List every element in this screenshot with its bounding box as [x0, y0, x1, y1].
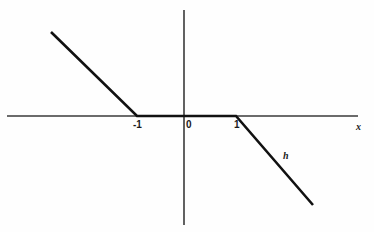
plot-canvas	[0, 0, 374, 232]
graph-figure: -1 0 1 x h	[0, 0, 374, 232]
curve-label-h: h	[283, 151, 289, 161]
x-tick-label-neg-one: -1	[133, 120, 142, 130]
x-tick-label-one: 1	[234, 120, 239, 130]
function-curve-h	[51, 32, 313, 205]
x-axis-label: x	[356, 122, 361, 132]
x-tick-label-zero: 0	[186, 120, 191, 130]
